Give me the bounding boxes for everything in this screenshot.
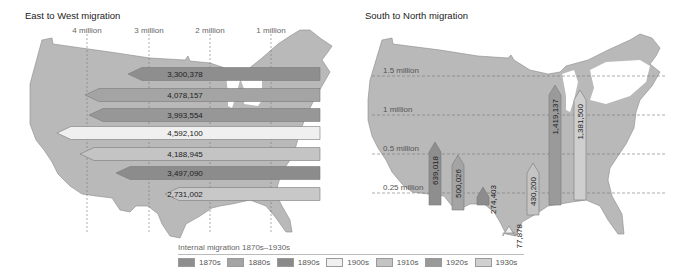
legend-swatch bbox=[178, 258, 195, 267]
tick-label: 1 million bbox=[383, 105, 412, 114]
legend-label: 1910s bbox=[397, 258, 419, 267]
legend-label: 1920s bbox=[446, 258, 468, 267]
migration-arrow bbox=[116, 167, 320, 180]
legend-item-1890s: 1890s bbox=[277, 258, 326, 267]
legend-swatch bbox=[277, 258, 294, 267]
legend-item-1880s: 1880s bbox=[227, 258, 276, 267]
migration-arrow bbox=[128, 68, 320, 81]
legend-label: 1900s bbox=[347, 258, 369, 267]
arrow-value-label: 4,078,157 bbox=[167, 91, 203, 100]
tick-label: 1 million bbox=[256, 26, 285, 35]
legend-label: 1870s bbox=[199, 258, 221, 267]
legend-swatch bbox=[475, 258, 492, 267]
migration-arrow bbox=[89, 109, 320, 122]
arrow-value-label: 3,993,554 bbox=[167, 111, 203, 120]
tick-label: 3 million bbox=[134, 26, 163, 35]
tick-label: 1.5 million bbox=[383, 66, 419, 75]
arrow-value-label: 1,381,500 bbox=[576, 103, 585, 139]
tick-label: 0.25 million bbox=[383, 183, 423, 192]
arrow-value-label: 3,497,090 bbox=[167, 169, 203, 178]
legend-title: Internal migration 1870s–1930s bbox=[178, 243, 524, 255]
legend-label: 1930s bbox=[496, 258, 518, 267]
legend-item-1870s: 1870s bbox=[178, 258, 227, 267]
legend-item-1900s: 1900s bbox=[326, 258, 375, 267]
arrow-value-label: 500,026 bbox=[454, 168, 463, 197]
legend-swatch bbox=[376, 258, 393, 267]
legend-swatch bbox=[227, 258, 244, 267]
legend: Internal migration 1870s–1930s 1870s1880… bbox=[178, 243, 524, 267]
tick-label: 0.5 million bbox=[383, 144, 419, 153]
legend-item-1910s: 1910s bbox=[376, 258, 425, 267]
arrow-value-label: 430,200 bbox=[529, 176, 538, 205]
legend-swatch bbox=[326, 258, 343, 267]
arrow-value-label: 3,300,378 bbox=[167, 70, 203, 79]
arrow-value-label: 4,592,100 bbox=[167, 129, 203, 138]
legend-item-1930s: 1930s bbox=[475, 258, 524, 267]
arrow-value-label: 4,188,945 bbox=[167, 150, 203, 159]
legend-items: 1870s1880s1890s1900s1910s1920s1930s bbox=[178, 258, 524, 267]
legend-swatch bbox=[425, 258, 442, 267]
tick-label: 4 million bbox=[72, 26, 101, 35]
arrow-value-label: 1,419,137 bbox=[551, 98, 560, 134]
arrow-value-label: 639,018 bbox=[431, 155, 440, 184]
legend-item-1920s: 1920s bbox=[425, 258, 474, 267]
migration-maps: 4 million3 million2 million1 million 3,3… bbox=[0, 0, 692, 277]
arrow-value-label: 2,731,002 bbox=[167, 190, 203, 199]
legend-label: 1890s bbox=[298, 258, 320, 267]
legend-label: 1880s bbox=[248, 258, 270, 267]
tick-label: 2 million bbox=[195, 26, 224, 35]
arrow-value-label: 274,403 bbox=[489, 184, 498, 213]
